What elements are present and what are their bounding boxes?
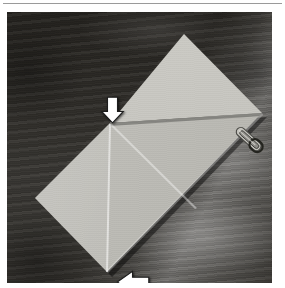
arrow-down-icon [100, 96, 125, 124]
arrow-left-icon [116, 270, 150, 283]
instruction-photograph [7, 12, 272, 283]
paper-clip-icon [231, 124, 267, 156]
top-horizontal-rule [3, 3, 282, 4]
page-root [0, 0, 285, 288]
